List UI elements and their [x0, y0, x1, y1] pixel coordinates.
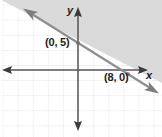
graph-canvas: [0, 0, 162, 137]
scan-band-left: [0, 0, 3, 137]
coordinate-plane-figure: y x (0, 5) (8, 0): [0, 0, 162, 137]
point-label-x-intercept: (8, 0): [104, 72, 128, 83]
y-axis-label: y: [67, 5, 73, 16]
point-y-intercept-dot: [76, 41, 80, 45]
x-axis-label: x: [146, 70, 152, 81]
point-label-y-intercept: (0, 5): [45, 37, 69, 48]
